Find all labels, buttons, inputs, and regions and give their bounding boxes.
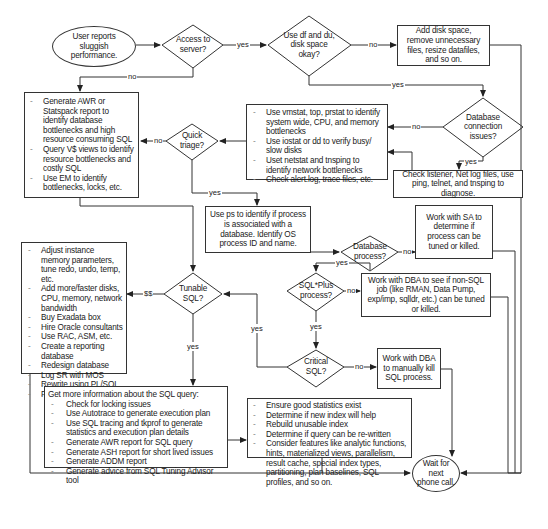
edge-label-disk-yes: yes	[391, 80, 405, 89]
sa-text: Work with SA to determine if process can…	[422, 213, 486, 251]
sql-info-item: -Generate advice from SQL Tuning Advisor…	[66, 467, 224, 486]
edge-label-tunable-yes: yes	[186, 342, 200, 351]
tuning-item: -Determine if query can be re-written	[266, 430, 408, 440]
edge-label-dbproc-no: no	[402, 247, 412, 256]
spend-money-item: -Buy Exadata box	[41, 313, 124, 323]
edge-label-triage-yes: yes	[208, 188, 222, 197]
tuning-item: -Ensure good statistics exist	[266, 401, 408, 411]
decision-disk-label: Use df and du, disk space okay?	[281, 31, 337, 60]
non-sql-box: Work with DBA to see if non-SQL job (lik…	[361, 273, 491, 317]
edge-label-dbproc-yes: yes	[335, 258, 349, 267]
spend-money-item: -Log SR with MOS	[41, 371, 124, 381]
os-tools-item: -Use iostat or dd to verify busy/ slow d…	[266, 137, 384, 156]
sql-info-item: -Generate ASH report for short lived iss…	[66, 448, 224, 458]
sql-info-item: -Check for locking issues	[66, 400, 224, 410]
decision-tunable-label: Tunable SQL?	[175, 284, 211, 303]
end-node: Wait for next phone call.	[412, 455, 460, 492]
spend-money-item: -Add more/faster disks, CPU, memory, net…	[41, 284, 124, 313]
edge-label-dbconn-yes: yes	[464, 157, 478, 166]
edge-label-dbconn-no: no	[411, 122, 421, 131]
os-tools-box: -Use vmstat, top, prstat to identify sys…	[246, 104, 388, 180]
end-node-label: Wait for next phone call.	[417, 459, 455, 488]
decision-tunable: Tunable SQL?	[169, 284, 217, 304]
decision-sqlplus: SQL*Plus process?	[292, 281, 340, 301]
kill-sql-text: Work with DBA to manually kill SQL proce…	[381, 354, 437, 383]
edge-label-access-no: no	[127, 72, 137, 81]
tuning-item: -Determine if new index will help	[266, 411, 408, 421]
ps-box: Use ps to identify if process is associa…	[205, 206, 311, 253]
os-tools-item: -Uset netstat and tnsping to identify ne…	[266, 156, 384, 175]
ps-text: Use ps to identify if process is associa…	[209, 210, 307, 248]
start-node: User reports sluggish performance.	[52, 26, 136, 67]
decision-triage-label: Quick triage?	[175, 131, 209, 150]
decision-access: Access to server?	[168, 35, 218, 55]
decision-access-label: Access to server?	[172, 35, 214, 54]
os-tools-item: -Use vmstat, top, prstat to identify sys…	[266, 108, 384, 137]
add-disk-text: Add disk space, remove unnecessary files…	[402, 26, 485, 64]
decision-dbproc: Database process?	[346, 242, 394, 262]
sql-info-item: -Generate ADDM report	[66, 457, 224, 467]
sa-box: Work with SA to determine if process can…	[415, 205, 493, 259]
decision-triage: Quick triage?	[172, 131, 212, 151]
decision-dbproc-label: Database process?	[349, 242, 391, 261]
spend-money-list: -Adjust instance memory parameters, tune…	[41, 246, 124, 400]
decision-dbconn-label: Database connection issues?	[458, 113, 508, 142]
edge-label-tunable-money: $$	[143, 289, 153, 298]
add-disk-box: Add disk space, remove unnecessary files…	[397, 25, 490, 66]
start-node-label: User reports sluggish performance.	[65, 32, 123, 61]
edge-label-critical-yes: yes	[250, 324, 264, 333]
sql-info-title: Get more information about the SQL query…	[48, 390, 224, 400]
decision-critical: Critical SQL?	[292, 357, 340, 377]
awr-item: -Generate AWR or Statspack report to ide…	[43, 97, 134, 145]
spend-money-item: -Adjust instance memory parameters, tune…	[41, 246, 124, 284]
sql-info-list: -Check for locking issues -Use Autotrace…	[48, 400, 224, 486]
decision-disk: Use df and du, disk space okay?	[276, 28, 342, 62]
spend-money-item: -Use RAC, ASM, etc.	[41, 332, 124, 342]
spend-money-box: -Adjust instance memory parameters, tune…	[21, 242, 127, 374]
flowchart-canvas: User reports sluggish performance. Acces…	[0, 0, 548, 529]
os-tools-list: -Use vmstat, top, prstat to identify sys…	[266, 108, 384, 185]
listener-text: Check listener, Net log files, use ping,…	[397, 170, 519, 199]
sql-info-item: -Generate AWR report for SQL query	[66, 438, 224, 448]
listener-box: Check listener, Net log files, use ping,…	[393, 170, 523, 198]
edge-label-sqlplus-yes: yes	[309, 322, 323, 331]
edge-label-critical-no: no	[354, 362, 364, 371]
tuning-item: -Consider features like analytic functio…	[266, 439, 408, 487]
non-sql-text: Work with DBA to see if non-SQL job (lik…	[366, 276, 486, 314]
tuning-item: -Rebuild unusable index	[266, 420, 408, 430]
decision-dbconn: Database connection issues?	[452, 110, 514, 144]
awr-box: -Generate AWR or Statspack report to ide…	[24, 92, 139, 198]
decision-critical-label: Critical SQL?	[300, 357, 332, 376]
spend-money-item: -Hire Oracle consultants	[41, 323, 124, 333]
spend-money-item: -Redesign database	[41, 361, 124, 371]
edge-label-triage-no: no	[153, 136, 163, 145]
awr-list: -Generate AWR or Statspack report to ide…	[43, 97, 134, 193]
awr-item: -Use EM to identify bottlenecks, locks, …	[43, 174, 134, 193]
decision-sqlplus-label: SQL*Plus process?	[296, 281, 336, 300]
sql-info-item: -Use Autotrace to generate execution pla…	[66, 409, 224, 419]
tuning-box: -Ensure good statistics exist -Determine…	[247, 398, 412, 458]
spend-money-item: -Create a reporting database	[41, 342, 124, 361]
sql-info-item: -Use SQL tracing and tkprof to generate …	[66, 419, 224, 438]
tuning-list: -Ensure good statistics exist -Determine…	[266, 401, 408, 487]
edge-label-disk-no: no	[368, 40, 378, 49]
sql-info-box: Get more information about the SQL query…	[44, 386, 228, 468]
awr-item: -Query V$ views to identify resource bot…	[43, 145, 134, 174]
kill-sql-box: Work with DBA to manually kill SQL proce…	[377, 348, 441, 389]
edge-label-access-yes: yes	[236, 40, 250, 49]
edge-label-sqlplus-no: no	[346, 286, 356, 295]
os-tools-item: -Check alert.log, trace files, etc.	[266, 175, 384, 185]
